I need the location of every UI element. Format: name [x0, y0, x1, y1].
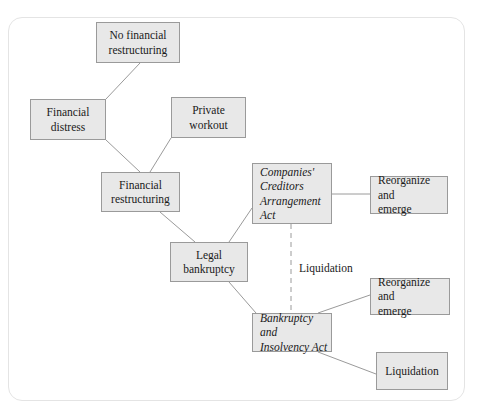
connector-restructuring-to-legal-bankruptcy — [160, 212, 195, 242]
connector-legal-bankruptcy-to-ccaa — [229, 208, 252, 242]
node-label-companies-creditors-arrangement-act: Companies' Creditors Arrangement Act — [253, 165, 321, 223]
node-financial-distress: Financial distress — [30, 99, 106, 140]
node-no-financial-restructuring: No financial restructuring — [96, 22, 180, 63]
node-label-no-financial-restructuring: No financial restructuring — [105, 28, 172, 57]
node-label-private-workout: Private workout — [185, 103, 231, 132]
node-bia-reorganize-and-emerge: Reorganize and emerge — [370, 278, 450, 315]
edge-label-liquidation-label: Liquidation — [299, 261, 353, 275]
node-legal-bankruptcy: Legal bankruptcy — [170, 242, 248, 282]
node-private-workout: Private workout — [171, 97, 246, 138]
connector-workout-to-restructuring — [150, 138, 171, 172]
node-ccaa-reorganize-and-emerge: Reorganize and emerge — [370, 176, 448, 214]
node-label-financial-distress: Financial distress — [43, 105, 94, 134]
node-label-legal-bankruptcy: Legal bankruptcy — [179, 248, 239, 277]
node-financial-restructuring: Financial restructuring — [101, 172, 180, 212]
node-label-bankruptcy-and-insolvency-act: Bankruptcy and Insolvency Act — [253, 311, 331, 355]
node-label-bia-reorganize-and-emerge: Reorganize and emerge — [371, 275, 449, 319]
node-label-ccaa-reorganize-and-emerge: Reorganize and emerge — [371, 173, 447, 217]
connector-bia-to-liquidation — [318, 352, 376, 374]
connector-legal-bankruptcy-to-bia — [229, 282, 256, 313]
node-label-bia-liquidation: Liquidation — [381, 364, 443, 379]
flowchart-canvas: No financial restructuringFinancial dist… — [0, 0, 487, 419]
node-label-financial-restructuring: Financial restructuring — [107, 178, 174, 207]
node-companies-creditors-arrangement-act: Companies' Creditors Arrangement Act — [252, 163, 332, 224]
connector-distress-to-restructuring — [106, 140, 140, 172]
node-bankruptcy-and-insolvency-act: Bankruptcy and Insolvency Act — [252, 313, 332, 352]
connector-distress-to-no-restructuring — [106, 63, 140, 99]
node-bia-liquidation: Liquidation — [376, 352, 448, 390]
